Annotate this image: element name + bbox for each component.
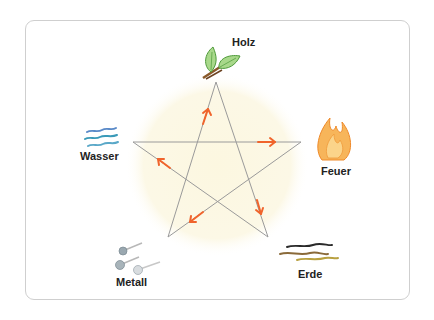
metal-nails-icon bbox=[116, 243, 161, 275]
label-erde: Erde bbox=[298, 268, 322, 280]
pentagram-diagram bbox=[0, 0, 434, 320]
earth-strokes-icon bbox=[280, 244, 338, 260]
water-waves-icon bbox=[85, 128, 118, 146]
flame-icon bbox=[318, 118, 351, 160]
label-wasser: Wasser bbox=[80, 150, 119, 162]
label-metall: Metall bbox=[116, 276, 147, 288]
label-holz: Holz bbox=[232, 36, 255, 48]
label-feuer: Feuer bbox=[321, 165, 351, 177]
background-glow bbox=[125, 73, 309, 257]
